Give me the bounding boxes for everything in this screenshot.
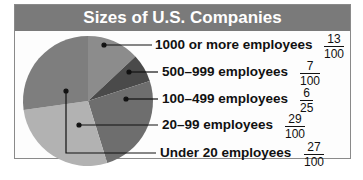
legend-label-500-999: 500–999 employees (162, 64, 288, 80)
legend-fraction-20-99: 29100 (285, 113, 305, 140)
legend-label-under-20: Under 20 employees (160, 145, 291, 161)
legend-fraction-under-20: 27100 (304, 141, 324, 168)
legend-label-100-499: 100–499 employees (162, 91, 288, 107)
legend-fraction-500-999: 7100 (300, 60, 320, 87)
slice-under-20 (23, 36, 88, 110)
legend-label-1000-plus: 1000 or more employees (155, 37, 313, 53)
legend-fraction-100-499: 625 (300, 87, 313, 114)
legend-fraction-1000-plus: 13100 (324, 33, 344, 60)
legend-label-20-99: 20–99 employees (162, 117, 273, 133)
